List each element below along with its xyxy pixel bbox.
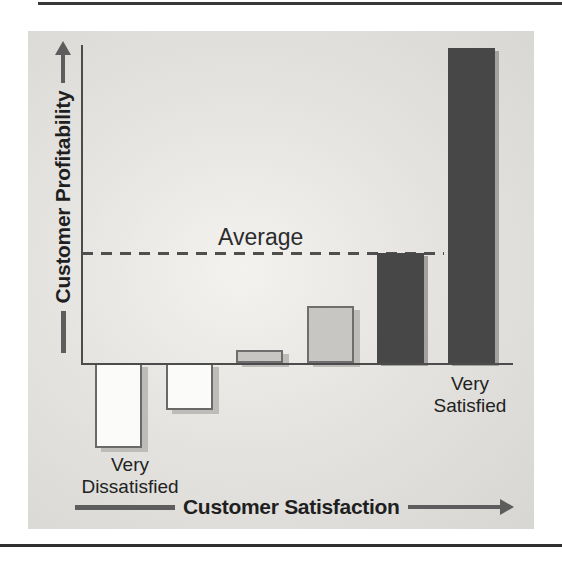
y-axis-dash-line xyxy=(61,311,66,353)
bar-6 xyxy=(448,48,495,363)
x-axis-label: Customer Satisfaction xyxy=(183,495,400,519)
top-divider xyxy=(38,2,562,5)
bar-2 xyxy=(166,363,213,410)
category-label-line: Satisfied xyxy=(410,395,530,417)
x-axis-arrow-icon xyxy=(408,499,514,515)
bar-3 xyxy=(236,350,283,363)
x-axis-line xyxy=(81,363,513,365)
category-label-very-dissatisfied: Very Dissatisfied xyxy=(50,454,210,498)
category-label-line: Very xyxy=(50,454,210,476)
category-label-line: Very xyxy=(410,373,530,395)
bar-4 xyxy=(307,306,354,363)
category-label-very-satisfied: Very Satisfied xyxy=(410,373,530,417)
y-axis-arrow-icon xyxy=(55,41,71,83)
y-axis-label: Customer Profitability xyxy=(51,91,75,304)
bar-1 xyxy=(95,363,142,448)
bar-5 xyxy=(377,253,424,363)
bottom-divider xyxy=(0,544,562,547)
page: { "labels": { "average": "Average", "x_a… xyxy=(0,0,562,567)
y-axis-title: Customer Profitability xyxy=(41,39,85,355)
average-label: Average xyxy=(218,224,303,251)
x-axis-dash-line xyxy=(75,505,175,510)
figure-panel: Customer Profitability Average Very Diss… xyxy=(28,31,534,529)
x-axis-title: Customer Satisfaction xyxy=(75,495,514,519)
